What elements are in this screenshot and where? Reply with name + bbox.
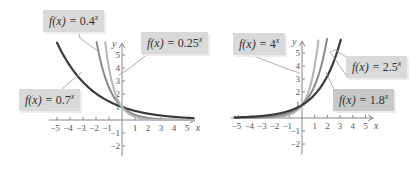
x-tick-label: −5	[50, 123, 60, 133]
label-left-0-4: f(x) = 0.4x	[43, 10, 104, 32]
x-tick-label: −2	[89, 123, 99, 133]
fx-text: f(x) =	[25, 93, 56, 107]
x-axis-label: x	[373, 120, 379, 131]
x-tick-label: −2	[270, 121, 280, 131]
y-tick-label: 5	[116, 50, 121, 60]
y-axis-label: y	[111, 38, 117, 49]
x-tick-label: 5	[363, 121, 368, 131]
exponent: x	[398, 59, 402, 68]
y-tick-label: 3	[116, 76, 121, 86]
y-axis-label: y	[291, 36, 297, 47]
base-value: 0.7	[56, 93, 71, 107]
fx-text: f(x) =	[147, 36, 178, 50]
y-tick-label: 5	[296, 48, 301, 58]
x-tick-label: −3	[257, 121, 267, 131]
x-tick-label: −5	[232, 121, 242, 131]
base-value: 0.25	[178, 36, 199, 50]
base-value: 1.8	[370, 93, 385, 107]
y-tick-label: −1	[290, 126, 300, 136]
fx-text: f(x) =	[352, 60, 383, 74]
x-tick-label: 4	[351, 121, 356, 131]
x-tick-label: 3	[338, 121, 343, 131]
label-right-2-5: f(x) = 2.5x	[346, 56, 407, 78]
fx-text: f(x) =	[339, 93, 370, 107]
exponent: x	[385, 92, 389, 101]
y-tick-label: −1	[110, 128, 120, 138]
fx-text: f(x) =	[239, 37, 270, 51]
label-left-0-7: f(x) = 0.7x	[19, 89, 80, 111]
x-tick-label: 2	[325, 121, 330, 131]
y-tick-label: 2	[296, 87, 301, 97]
y-tick-label: −2	[110, 141, 120, 151]
x-tick-label: 1	[133, 123, 138, 133]
x-tick-label: −4	[244, 121, 254, 131]
fx-text: f(x) =	[49, 14, 80, 28]
x-tick-label: −4	[63, 123, 73, 133]
base-value: 0.4	[80, 14, 95, 28]
exponent: x	[199, 35, 203, 44]
y-tick-label: −2	[290, 139, 300, 149]
base-value: 2.5	[383, 60, 398, 74]
leader-line	[62, 72, 82, 89]
x-tick-label: 1	[312, 121, 317, 131]
x-axis-label: x	[195, 122, 201, 133]
x-tick-label: 2	[146, 123, 151, 133]
label-right-4: f(x) = 4x	[233, 33, 285, 55]
exponent: x	[71, 92, 75, 101]
y-tick-label: 4	[296, 61, 301, 71]
x-tick-label: −3	[76, 123, 86, 133]
x-tick-label: 4	[172, 123, 177, 133]
leader-line	[246, 53, 300, 73]
y-tick-label: 3	[296, 74, 301, 84]
y-tick-label: 4	[116, 63, 121, 73]
x-tick-label: 3	[159, 123, 164, 133]
x-tick-label: 5	[185, 123, 190, 133]
label-right-1-8: f(x) = 1.8x	[333, 89, 394, 111]
exponent: x	[95, 13, 99, 22]
exponent: x	[276, 36, 280, 45]
label-left-0-25: f(x) = 0.25x	[141, 32, 208, 54]
